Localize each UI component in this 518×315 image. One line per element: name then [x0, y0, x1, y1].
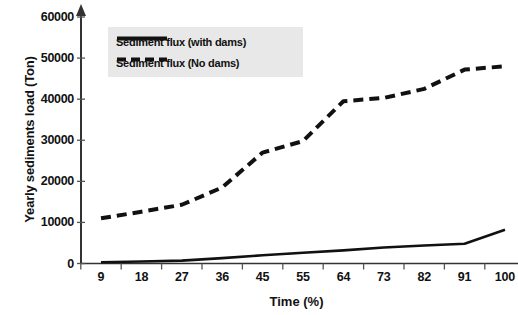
legend-item-no-dams: Sediment flux (No dams) — [116, 54, 239, 72]
series-line-1 — [101, 66, 505, 218]
legend-item-with-dams: Sediment flux (with dams) — [116, 33, 246, 51]
chart-legend: Sediment flux (with dams) Sediment flux … — [108, 27, 303, 77]
series-line-0 — [101, 230, 505, 262]
y-axis-arrow-icon — [76, 4, 86, 16]
chart-container: Yearly sediments load (Ton) 010000200003… — [0, 0, 518, 315]
legend-dashed-line-icon — [116, 54, 168, 65]
legend-solid-line-icon — [116, 33, 168, 44]
